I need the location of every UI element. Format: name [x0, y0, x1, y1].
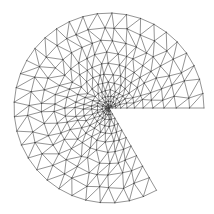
- mesh-edge: [127, 18, 141, 28]
- mesh-edge: [70, 89, 78, 94]
- mesh-edge: [46, 45, 57, 57]
- mesh-edge: [76, 95, 78, 103]
- mesh-edge: [108, 188, 123, 189]
- mesh-edge: [82, 47, 87, 58]
- mesh-edge: [35, 77, 45, 90]
- mesh-edge: [72, 82, 81, 87]
- mesh-edge: [66, 156, 81, 159]
- mesh-edge: [79, 63, 80, 75]
- mesh-edge: [101, 40, 113, 41]
- mesh-edge: [27, 48, 35, 60]
- mesh-edge: [194, 66, 199, 80]
- mesh-edge: [95, 55, 102, 64]
- mesh-edge: [133, 59, 134, 73]
- mesh-edge: [105, 127, 109, 134]
- mesh-edge: [28, 112, 42, 116]
- mesh-edge: [144, 83, 150, 93]
- mesh-edge: [81, 143, 82, 157]
- mesh-edge: [57, 123, 61, 133]
- mesh-edge: [119, 94, 123, 96]
- mesh-edge: [166, 32, 177, 42]
- mesh-edge: [112, 41, 118, 54]
- mesh-edge: [100, 119, 105, 123]
- mesh-edge: [97, 140, 105, 142]
- mesh-edge: [28, 106, 30, 116]
- mesh-edge: [105, 141, 114, 142]
- mesh-edge: [102, 91, 105, 92]
- mesh-edge: [118, 54, 119, 65]
- mesh-edge: [42, 154, 53, 166]
- mesh-edge: [133, 53, 147, 59]
- mesh-edge: [173, 42, 177, 59]
- mesh-edge: [27, 61, 40, 67]
- mesh-edge: [42, 103, 55, 104]
- mesh-edge: [102, 109, 103, 111]
- mesh-edge: [22, 145, 29, 158]
- mesh-edge: [124, 149, 126, 160]
- triangular-mesh: [0, 0, 214, 214]
- mesh-edge: [46, 57, 63, 60]
- mesh-edge: [88, 28, 105, 30]
- mesh-edge: [169, 59, 173, 76]
- mesh-edge: [111, 111, 113, 114]
- mesh-edge: [17, 131, 22, 145]
- mesh-edge: [101, 126, 105, 132]
- mesh-edge: [61, 133, 64, 139]
- mesh-edge: [57, 22, 70, 29]
- mesh-edge: [72, 53, 79, 63]
- mesh-edge: [112, 114, 114, 118]
- mesh-edge: [105, 90, 110, 91]
- mesh-edge: [109, 125, 114, 126]
- mesh-edge: [172, 85, 174, 96]
- mesh-edge: [86, 121, 90, 126]
- mesh-edge: [72, 195, 86, 200]
- mesh-edge: [111, 114, 112, 119]
- mesh-edge: [123, 173, 124, 189]
- mesh-edge: [70, 87, 82, 89]
- mesh-edge: [20, 74, 34, 78]
- mesh-edge: [110, 115, 111, 120]
- mesh-edge: [151, 100, 153, 108]
- mesh-edge: [107, 52, 108, 63]
- mesh-edge: [103, 118, 105, 119]
- mesh-edge: [81, 82, 86, 87]
- mesh-edge: [45, 38, 57, 46]
- mesh-edge: [110, 111, 111, 115]
- mesh-edge: [55, 68, 64, 75]
- mesh-edge: [117, 99, 120, 102]
- mesh-edge: [121, 76, 126, 79]
- mesh-edge: [28, 115, 33, 132]
- mesh-edge: [151, 57, 153, 72]
- mesh-edge: [100, 175, 108, 187]
- mesh-edge: [92, 64, 102, 68]
- mesh-edge: [115, 188, 124, 202]
- mesh-edge: [147, 53, 154, 57]
- mesh-edge: [97, 150, 100, 163]
- mesh-edge: [114, 118, 115, 125]
- mesh-edge: [102, 83, 103, 92]
- mesh-edge: [108, 75, 113, 82]
- mesh-edge: [108, 152, 115, 153]
- mesh-edge: [69, 17, 83, 22]
- mesh-edge: [65, 69, 71, 75]
- mesh-edge: [57, 29, 67, 39]
- mesh-edge: [87, 59, 92, 68]
- mesh-edge: [161, 89, 162, 100]
- mesh-edge: [156, 78, 161, 89]
- mesh-edge: [54, 104, 55, 111]
- mesh-edge: [84, 116, 86, 121]
- mesh-edge: [75, 102, 76, 107]
- mesh-edge: [85, 97, 93, 100]
- mesh-edge: [114, 76, 120, 83]
- mesh-edge: [67, 97, 76, 102]
- mesh-edge: [76, 102, 84, 104]
- mesh-edge: [118, 44, 126, 55]
- mesh-edge: [69, 22, 76, 35]
- mesh-edge: [105, 13, 112, 28]
- mesh-edge: [80, 75, 82, 87]
- mesh-edge: [119, 56, 126, 65]
- mesh-edge: [97, 175, 100, 187]
- mesh-edge: [111, 96, 114, 97]
- mesh-edge: [17, 131, 33, 132]
- mesh-edge: [176, 98, 189, 108]
